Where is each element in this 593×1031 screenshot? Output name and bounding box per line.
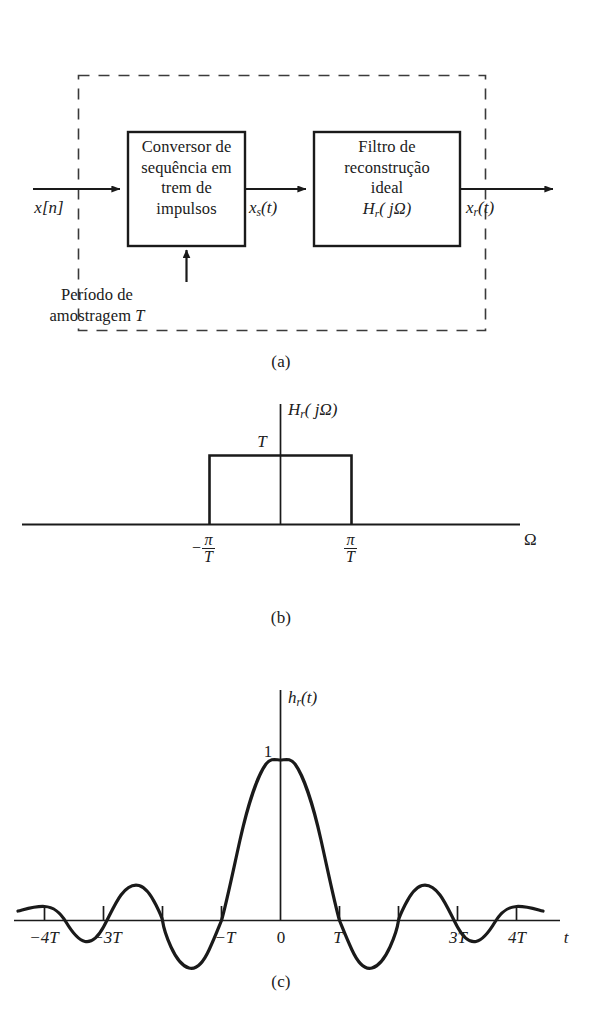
tick-label-minus-T: −T xyxy=(215,928,236,948)
output-signal-label: xr(t) xyxy=(466,198,494,219)
hr-symbol: h xyxy=(288,688,297,707)
block1-label: Conversor de sequência em trem de impuls… xyxy=(128,137,245,219)
block2-H-argument: ( jΩ) xyxy=(379,199,411,218)
block2-line-3: ideal xyxy=(314,178,460,199)
panel-b-graphics xyxy=(22,404,520,525)
figure-ideal-reconstruction-system: Sistema de reconstrução ideal Conversor … xyxy=(0,0,593,1031)
Hr-argument: ( jΩ) xyxy=(305,400,338,419)
tick-label-4T: 4T xyxy=(508,928,526,948)
block2-line-1: Filtro de xyxy=(314,137,460,158)
panel-c-x-axis-label: t xyxy=(564,928,569,948)
block1-line-3: trem de xyxy=(128,178,245,199)
caption-c: (c) xyxy=(271,972,290,992)
denominator-T-right: T xyxy=(344,548,357,565)
negative-sign: − xyxy=(192,532,202,557)
numerator-pi-left: π xyxy=(202,532,215,548)
panel-b-x-axis-label: Ω xyxy=(524,530,537,550)
tick-label-pi-over-T: π T xyxy=(344,532,357,566)
block2-transfer-function: Hr( jΩ) xyxy=(314,199,460,224)
hr-argument: (t) xyxy=(301,688,317,707)
panel-c-graphics xyxy=(14,690,560,968)
tick-label-negative-pi-over-T: − π T xyxy=(192,532,215,566)
block2-line-2: reconstrução xyxy=(314,158,460,179)
peak-amplitude-label: 1 xyxy=(264,742,273,762)
xr-argument: (t) xyxy=(478,198,494,217)
fraction-pi-over-T-left: π T xyxy=(202,532,215,566)
filter-height-label: T xyxy=(257,432,266,452)
xr-symbol: x xyxy=(466,198,474,217)
tick-label-minus-4T: −4T xyxy=(29,928,58,948)
sampling-period-line-1: Período de xyxy=(7,285,187,306)
figure-vector-layer xyxy=(0,0,593,1031)
block2-label: Filtro de reconstrução ideal Hr( jΩ) xyxy=(314,137,460,223)
panel-b-y-axis-label: Hr( jΩ) xyxy=(288,400,337,421)
tick-label-minus-3T: −3T xyxy=(92,928,121,948)
sampling-period-line-2: amostragem T xyxy=(7,306,187,327)
block1-line-4: impulsos xyxy=(128,199,245,220)
Hr-symbol: H xyxy=(288,400,300,419)
tick-label-3T: 3T xyxy=(449,928,467,948)
caption-a: (a) xyxy=(271,352,290,372)
xs-symbol: x xyxy=(249,198,257,217)
panel-c-y-axis-label: hr(t) xyxy=(288,688,317,709)
numerator-pi-right: π xyxy=(344,532,357,548)
block1-line-2: sequência em xyxy=(128,158,245,179)
block2-H-symbol: H xyxy=(363,199,375,218)
tick-label-T: T xyxy=(333,928,342,948)
denominator-T-left: T xyxy=(202,548,215,565)
input-signal-label: x[n] xyxy=(34,198,63,218)
sampling-period-symbol: T xyxy=(135,306,144,325)
sampling-period-word: amostragem xyxy=(49,306,131,325)
block1-line-1: Conversor de xyxy=(128,137,245,158)
sampling-period-label: Período de amostragem T xyxy=(7,285,187,326)
tick-label-zero: 0 xyxy=(277,928,286,948)
fraction-pi-over-T-right: π T xyxy=(344,532,357,566)
xs-argument: (t) xyxy=(261,198,277,217)
intermediate-signal-label: xs(t) xyxy=(249,198,277,219)
caption-b: (b) xyxy=(271,608,291,628)
